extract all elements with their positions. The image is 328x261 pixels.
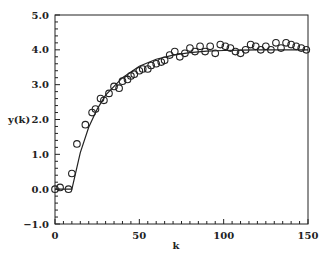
data-point <box>82 121 89 128</box>
y-tick-label: −1.0 <box>23 219 49 230</box>
data-point <box>273 40 280 47</box>
x-tick-label: 100 <box>213 230 234 241</box>
y-tick-label: 5.0 <box>32 10 49 21</box>
y-tick-label: 1.0 <box>32 149 49 160</box>
x-tick-label: 50 <box>132 230 146 241</box>
data-point <box>207 43 214 50</box>
data-point <box>69 170 76 177</box>
data-point <box>197 43 204 50</box>
y-tick-label: 3.0 <box>32 79 49 90</box>
x-tick-label: 150 <box>298 230 319 241</box>
data-point <box>171 48 178 55</box>
x-axis: 050100150 <box>52 219 319 241</box>
y-tick-label: 0.0 <box>32 184 49 195</box>
model-curve <box>55 50 308 189</box>
x-axis-label: k <box>173 240 181 251</box>
y-tick-label: 4.0 <box>32 44 49 55</box>
data-point <box>278 45 285 52</box>
y-tick-label: 2.0 <box>32 114 49 125</box>
data-point <box>74 141 81 148</box>
x-tick-label: 0 <box>52 230 59 241</box>
data-markers <box>52 40 310 193</box>
chart: −1.00.01.02.03.04.05.0 050100150 y(k) k <box>0 0 328 261</box>
y-axis-label: y(k) <box>7 114 30 125</box>
